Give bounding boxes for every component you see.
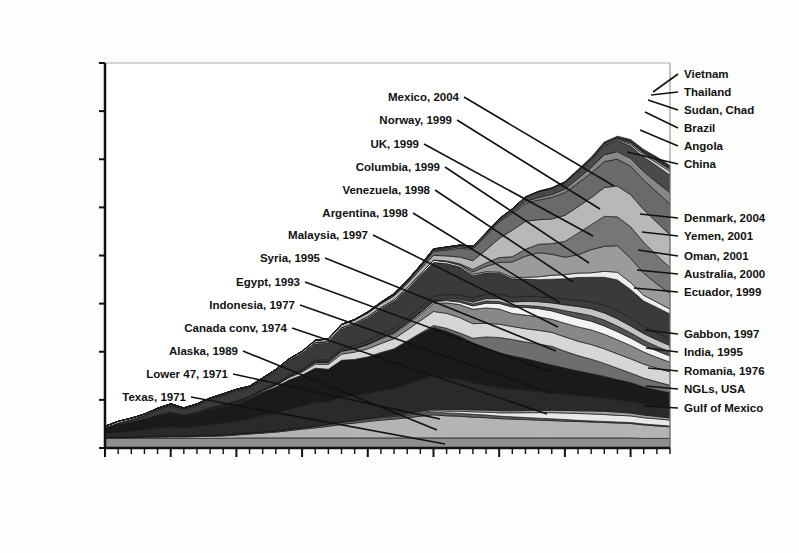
callout-label: Brazil (684, 122, 715, 134)
callout-label: Ecuador, 1999 (684, 286, 761, 298)
callout-label: Argentina, 1998 (322, 207, 408, 219)
callout-label: Norway, 1999 (379, 114, 452, 126)
callout-label: Alaska, 1989 (169, 345, 238, 357)
chart-figure: Oil Producing Countries That Have Past T… (0, 0, 799, 553)
callout-label: Columbia, 1999 (356, 161, 440, 173)
callout-label: Romania, 1976 (684, 365, 765, 377)
callout-label: Australia, 2000 (684, 268, 765, 280)
callout-label: Texas, 1971 (122, 391, 186, 403)
callout-label: India, 1995 (684, 346, 743, 358)
callout-label: Canada conv, 1974 (184, 322, 287, 334)
callout-label: Venezuela, 1998 (342, 184, 430, 196)
callout-label: Vietnam (684, 68, 729, 80)
callout-label: Angola (684, 140, 723, 152)
callout-label: Gulf of Mexico (684, 402, 763, 414)
callout-label: Denmark, 2004 (684, 212, 765, 224)
callout-label: NGLs, USA (684, 383, 745, 395)
callout-label: Syria, 1995 (260, 252, 320, 264)
callout-label: Mexico, 2004 (388, 91, 459, 103)
callout-label: Indonesia, 1977 (209, 299, 295, 311)
callout-label: Oman, 2001 (684, 250, 749, 262)
callout-label: Egypt, 1993 (236, 276, 300, 288)
callout-label: Thailand (684, 86, 731, 98)
plot-clip-left (0, 0, 105, 553)
callout-label: Sudan, Chad (684, 104, 754, 116)
area-band (105, 438, 670, 448)
callout-label: China (684, 158, 716, 170)
callout-label: Gabbon, 1997 (684, 328, 759, 340)
plot-clip-bottom (0, 449, 799, 553)
callout-label: Malaysia, 1997 (288, 229, 368, 241)
callout-label: UK, 1999 (370, 138, 419, 150)
callout-label: Lower 47, 1971 (146, 368, 228, 380)
callout-label: Yemen, 2001 (684, 230, 753, 242)
stacked-area-plot (0, 0, 799, 553)
